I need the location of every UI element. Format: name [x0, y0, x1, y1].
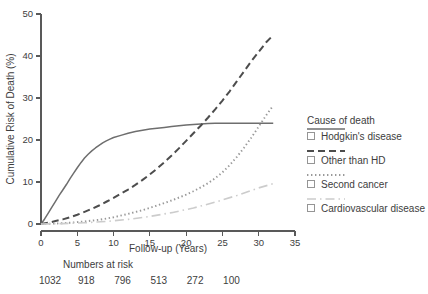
chart-canvas: 01020304050 05101520253035 Follow-up (Ye…: [0, 0, 428, 294]
y-tick-label: 40: [22, 50, 33, 61]
series-line: [41, 123, 273, 224]
y-axis-title: Cumulative Risk of Death (%): [5, 53, 16, 184]
numbers-at-risk: Numbers at risk 1032918796513272100: [39, 259, 240, 286]
legend-item-label[interactable]: Hodgkin's disease: [321, 131, 402, 142]
x-tick-label: 35: [290, 237, 301, 248]
legend: Cause of death Hodgkin's diseaseOther th…: [307, 115, 425, 214]
series-line: [41, 184, 273, 224]
y-tick-label: 20: [22, 134, 33, 145]
x-tick-label: 30: [253, 237, 264, 248]
y-axis: 01020304050: [22, 8, 41, 229]
legend-marker-box[interactable]: [307, 133, 314, 140]
y-tick-label: 50: [22, 8, 33, 19]
numbers-at-risk-value: 513: [151, 275, 168, 286]
numbers-at-risk-value: 100: [223, 275, 240, 286]
legend-item-label[interactable]: Other than HD: [321, 155, 385, 166]
y-tick-label: 10: [22, 176, 33, 187]
chart-figure: 01020304050 05101520253035 Follow-up (Ye…: [0, 0, 428, 294]
legend-marker-box[interactable]: [307, 205, 314, 212]
numbers-at-risk-value: 1032: [39, 275, 62, 286]
x-tick-label: 25: [217, 237, 228, 248]
legend-marker-box[interactable]: [307, 157, 314, 164]
data-series-group: [41, 35, 273, 224]
x-tick-label: 0: [38, 237, 43, 248]
numbers-at-risk-title: Numbers at risk: [63, 259, 134, 270]
series-line: [41, 35, 273, 224]
legend-title: Cause of death: [307, 115, 375, 126]
legend-item-label[interactable]: Second cancer: [321, 179, 388, 190]
y-tick-label: 30: [22, 92, 33, 103]
x-axis-title: Follow-up (Years): [129, 243, 207, 254]
x-tick-label: 5: [75, 237, 80, 248]
x-tick-label: 10: [108, 237, 119, 248]
numbers-at-risk-value: 796: [114, 275, 131, 286]
axis-titles: Follow-up (Years) Cumulative Risk of Dea…: [5, 53, 207, 254]
numbers-at-risk-value: 918: [78, 275, 95, 286]
legend-item-label[interactable]: Cardiovascular disease: [321, 203, 425, 214]
y-tick-label: 0: [28, 218, 33, 229]
numbers-at-risk-value: 272: [187, 275, 204, 286]
legend-marker-box[interactable]: [307, 181, 314, 188]
